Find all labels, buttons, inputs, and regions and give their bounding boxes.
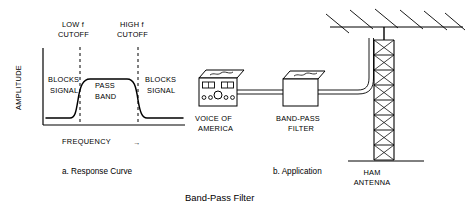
antenna-element-3 (375, 9, 398, 28)
radio-small-knob-4 (231, 96, 235, 100)
radio-small-knob-3 (224, 96, 228, 100)
ham-antenna-icon (326, 9, 465, 161)
y-axis-label: AMPLITUDE (14, 65, 23, 110)
high-cutoff-label-line2: CUTOFF (117, 30, 148, 39)
filter-label-line2: FILTER (288, 124, 314, 133)
coax-radio-to-filter (237, 90, 283, 94)
filter-label-line1: BAND-PASS (276, 114, 320, 123)
filter-front-face (283, 79, 318, 106)
antenna-element-4 (400, 10, 423, 29)
high-cutoff-label-line1: HIGH f (120, 20, 145, 29)
band-pass-filter-icon (283, 71, 325, 106)
blocks-signal-left-line1: BLOCKS (48, 75, 79, 84)
low-cutoff-label-line1: LOW f (62, 20, 85, 29)
response-curve-panel: AMPLITUDE FREQUENCY → LOW f CUTOFF HIGH … (14, 20, 185, 176)
figure-canvas: AMPLITUDE FREQUENCY → LOW f CUTOFF HIGH … (0, 0, 467, 209)
application-panel: VOICE OF AMERICA BAND-PASS FILTER (195, 9, 465, 187)
antenna-element-2 (350, 10, 373, 29)
blocks-signal-left-line2: SIGNAL (50, 86, 78, 95)
antenna-element-1 (326, 14, 349, 33)
radio-top-face (199, 70, 244, 78)
x-axis-arrow-icon: → (133, 138, 141, 147)
antenna-label-line1: HAM (363, 168, 380, 177)
radio-label-line1: VOICE OF (195, 114, 232, 123)
low-cutoff-label-line2: CUTOFF (58, 30, 89, 39)
pass-band-label-line2: BAND (95, 92, 116, 101)
pass-band-label-line1: PASS (95, 81, 115, 90)
blocks-signal-right-line2: SIGNAL (147, 86, 175, 95)
coax-2-lower-line (318, 38, 374, 94)
panel-a-caption: a. Response Curve (62, 167, 133, 176)
figure-main-caption: Band-Pass Filter (185, 192, 254, 203)
panel-b-caption: b. Application (273, 167, 322, 176)
radio-small-knob-2 (209, 96, 213, 100)
blocks-signal-right-line1: BLOCKS (145, 75, 176, 84)
antenna-label-line2: ANTENNA (354, 178, 391, 187)
coax-2-upper-line (318, 38, 369, 90)
coax-filter-to-antenna (318, 38, 374, 94)
x-axis-label: FREQUENCY (62, 137, 111, 146)
radio-label-line2: AMERICA (198, 124, 233, 133)
radio-small-knob-1 (202, 96, 206, 100)
band-pass-filter-figure: AMPLITUDE FREQUENCY → LOW f CUTOFF HIGH … (0, 0, 467, 209)
radio-tuning-knob (214, 91, 222, 99)
radio-receiver-icon (199, 70, 244, 106)
